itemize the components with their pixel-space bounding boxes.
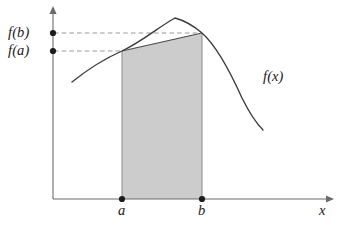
y-axis-arrowhead <box>49 6 56 14</box>
dot-f-of-b <box>50 30 56 36</box>
label-f-of-x: f(x) <box>263 69 284 84</box>
label-b: b <box>198 203 205 218</box>
label-a: a <box>118 203 125 218</box>
figure-canvas: f(b) f(a) f(x) a b x <box>0 0 343 226</box>
figure-graphics <box>0 0 343 226</box>
label-f-of-b: f(b) <box>8 25 29 40</box>
label-f-of-a: f(a) <box>8 43 29 58</box>
label-x-axis: x <box>319 203 326 218</box>
shaded-region <box>122 33 202 199</box>
dot-f-of-a <box>50 48 56 54</box>
x-axis-arrowhead <box>326 195 334 202</box>
